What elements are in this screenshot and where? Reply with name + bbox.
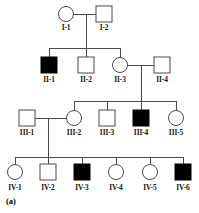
individual-symbol-i-2[interactable] [96,6,112,22]
individual-label-iv-6: IV-6 [176,184,189,192]
individual-symbol-iv-2[interactable] [40,164,56,180]
individual-symbol-ii-4[interactable] [154,57,170,73]
individual-label-i-1: I-1 [62,24,71,32]
individual-symbol-iv-4[interactable] [109,165,124,180]
individual-label-ii-2: II-2 [80,76,92,84]
individual-label-iv-1: IV-1 [8,184,21,192]
individual-symbol-ii-3[interactable] [113,58,128,73]
individual-label-iii-3: III-3 [100,129,114,137]
pedigree-figure: I-1I-2II-1II-2II-3II-4III-1III-2III-3III… [0,0,199,213]
individual-label-iv-3: IV-3 [75,184,88,192]
individual-symbol-iii-1[interactable] [19,110,35,126]
individual-label-iv-2: IV-2 [41,184,54,192]
individual-symbol-iv-3[interactable] [74,164,90,180]
individual-label-i-2: I-2 [100,24,109,32]
individual-label-ii-1: II-1 [43,76,55,84]
individual-label-iii-5: III-5 [169,129,183,137]
individual-label-iv-4: IV-4 [109,184,122,192]
individual-label-iii-4: III-4 [134,129,148,137]
individual-label-iii-2: III-2 [67,129,81,137]
individual-symbol-ii-1[interactable] [41,57,57,73]
individual-label-iv-5: IV-5 [143,184,156,192]
individual-label-iii-1: III-1 [20,129,34,137]
individual-symbols-layer [8,6,192,180]
individual-symbol-iv-5[interactable] [143,165,158,180]
individual-symbol-iv-1[interactable] [8,165,23,180]
panel-label: (a) [6,197,16,206]
individual-label-ii-3: II-3 [114,76,126,84]
individual-symbol-iii-2[interactable] [67,111,82,126]
individual-symbol-iv-6[interactable] [175,164,191,180]
individual-symbol-iii-3[interactable] [99,110,115,126]
connector-lines-layer [15,14,183,164]
individual-symbol-iii-5[interactable] [169,111,184,126]
individual-label-ii-4: II-4 [156,76,168,84]
individual-symbol-iii-4[interactable] [133,110,149,126]
individual-symbol-ii-2[interactable] [78,57,94,73]
individual-symbol-i-1[interactable] [59,7,74,22]
